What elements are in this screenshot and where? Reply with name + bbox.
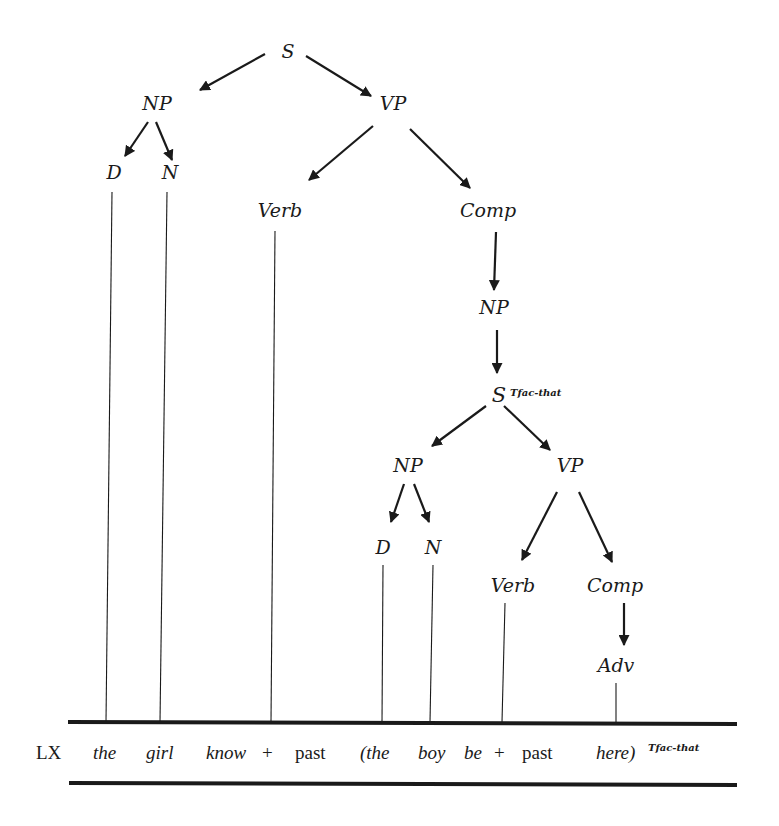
token-past-1: past: [295, 742, 326, 763]
token-the: the: [93, 742, 116, 763]
top-rule: [68, 722, 737, 724]
token-plus-2: +: [494, 742, 505, 763]
lexical-row: LX the girl know + past (the boy be + pa…: [36, 742, 700, 764]
edge-s-np: [200, 54, 265, 90]
edge-s-np-embedded: [432, 406, 486, 446]
edge-vp-verb-embedded: [522, 492, 557, 560]
terminal-stems: [106, 192, 616, 722]
edge-s-vp: [306, 56, 371, 96]
edge-vp-comp-embedded: [579, 492, 612, 562]
lexical-superscript: Tfac-that: [648, 742, 700, 753]
edge-np-n-embedded: [414, 484, 429, 522]
node-np-complement: NP: [478, 296, 510, 318]
edge-s-vp-embedded: [504, 406, 550, 450]
node-np-embedded: NP: [392, 454, 424, 476]
node-vp-embedded: VP: [557, 454, 585, 476]
node-d-subject: D: [105, 161, 121, 183]
token-know: know: [206, 742, 246, 763]
node-s-embedded: S Tfac-that: [492, 383, 562, 407]
token-here-close: here): [596, 742, 635, 764]
lx-label: LX: [36, 742, 62, 763]
node-comp-main: Comp: [460, 199, 516, 221]
phrase-structure-tree: S NP VP D N Verb Comp NP S Tfac-that NP …: [0, 0, 779, 826]
token-be: be: [464, 742, 482, 763]
node-n-embedded: N: [424, 536, 443, 558]
node-d-embedded: D: [374, 536, 390, 558]
node-verb-embedded: Verb: [491, 574, 535, 596]
token-girl: girl: [146, 742, 173, 763]
node-verb-main: Verb: [258, 199, 302, 221]
node-s-root: S: [281, 40, 294, 62]
node-np-subject: NP: [141, 92, 173, 114]
token-plus-1: +: [262, 742, 273, 763]
edge-np-d-embedded: [391, 484, 404, 522]
edge-comp-np: [494, 232, 496, 290]
edge-np-n: [156, 122, 172, 160]
node-adv: Adv: [596, 654, 635, 676]
node-vp-main: VP: [380, 92, 408, 114]
node-n-subject: N: [161, 161, 180, 183]
edge-vp-comp: [410, 129, 470, 188]
svg-text:S: S: [492, 383, 506, 407]
bottom-rule: [69, 783, 737, 785]
token-boy: boy: [418, 742, 446, 763]
node-s-embedded-superscript: Tfac-that: [510, 387, 562, 398]
edge-vp-verb: [309, 126, 373, 180]
edge-np-d: [125, 122, 148, 156]
token-past-2: past: [522, 742, 553, 763]
node-comp-embedded: Comp: [587, 574, 643, 596]
token-open-the: (the: [360, 742, 390, 764]
